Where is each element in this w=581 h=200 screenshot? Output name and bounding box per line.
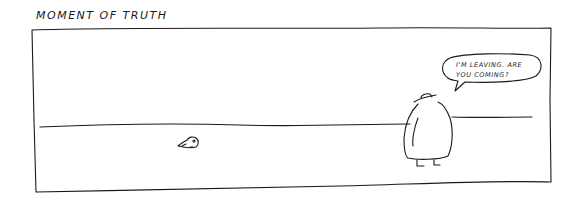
speech-bubble-text: I'M LEAVING. ARE YOU COMING? xyxy=(456,60,538,80)
horizon-line xyxy=(40,124,410,127)
comic-strip: MOMENT OF TRUTH I'M xyxy=(0,0,581,200)
comic-panel-drawing xyxy=(0,0,581,200)
large-figure-icon xyxy=(404,94,452,166)
speech-line-2: YOU COMING? xyxy=(456,70,538,80)
small-creature-icon xyxy=(178,137,198,148)
speech-line-1: I'M LEAVING. ARE xyxy=(456,60,538,70)
panel-frame xyxy=(32,28,551,192)
